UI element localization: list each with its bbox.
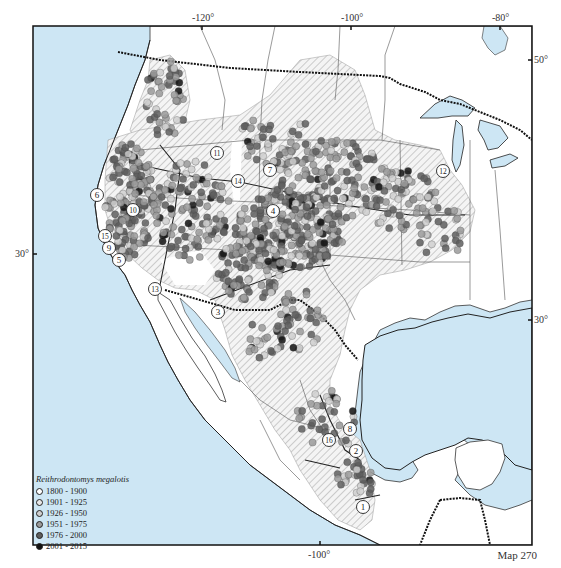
occurrence-dot <box>288 242 295 249</box>
occurrence-dot <box>156 90 163 97</box>
occurrence-dot <box>250 117 257 124</box>
occurrence-dot <box>290 344 297 351</box>
occurrence-dot <box>292 200 299 207</box>
occurrence-dot <box>122 144 129 151</box>
legend-title: Reithrodontomys megalotis <box>36 474 129 485</box>
occurrence-dot <box>270 232 277 239</box>
occurrence-dot <box>119 217 126 224</box>
occurrence-dot <box>170 65 177 72</box>
svg-text:7: 7 <box>268 165 273 175</box>
occurrence-dot <box>302 141 309 148</box>
occurrence-dot <box>192 213 199 220</box>
occurrence-dot <box>423 249 430 256</box>
subspecies-marker-13: 13 <box>149 283 162 296</box>
occurrence-dot <box>339 238 346 245</box>
occurrence-dot <box>349 212 356 219</box>
legend-dot-icon <box>36 521 43 528</box>
occurrence-dot <box>419 205 426 212</box>
occurrence-dot <box>334 475 341 482</box>
occurrence-dot <box>180 175 187 182</box>
occurrence-dot <box>180 116 187 123</box>
occurrence-dot <box>307 176 314 183</box>
occurrence-dot <box>312 148 319 155</box>
occurrence-dot <box>308 331 315 338</box>
legend-entry: 1800 - 1900 <box>36 486 129 497</box>
subspecies-marker-7: 7 <box>264 164 277 177</box>
occurrence-dot <box>344 459 351 466</box>
svg-text:9: 9 <box>107 243 112 253</box>
occurrence-dot <box>363 208 370 215</box>
occurrence-dot <box>132 190 139 197</box>
occurrence-dot <box>168 231 175 238</box>
occurrence-dot <box>138 172 145 179</box>
occurrence-dot <box>123 169 130 176</box>
occurrence-dot <box>144 76 151 83</box>
occurrence-dot <box>178 226 185 233</box>
occurrence-dot <box>245 276 252 283</box>
subspecies-marker-3: 3 <box>212 306 225 319</box>
occurrence-dot <box>259 324 266 331</box>
occurrence-dot <box>410 196 417 203</box>
occurrence-dot <box>331 195 338 202</box>
occurrence-dot <box>275 272 282 279</box>
occurrence-dot <box>293 143 300 150</box>
occurrence-dot <box>218 183 225 190</box>
occurrence-dot <box>318 169 325 176</box>
occurrence-dot <box>291 222 298 229</box>
occurrence-dot <box>418 230 425 237</box>
occurrence-dot <box>162 218 169 225</box>
occurrence-dot <box>283 298 290 305</box>
occurrence-dot <box>337 204 344 211</box>
occurrence-dot <box>154 110 161 117</box>
occurrence-dot <box>298 237 305 244</box>
occurrence-dot <box>112 211 119 218</box>
occurrence-dot <box>190 181 197 188</box>
occurrence-dot <box>194 236 201 243</box>
occurrence-dot <box>440 221 447 228</box>
svg-text:2: 2 <box>354 446 359 456</box>
occurrence-dot <box>314 307 321 314</box>
occurrence-dot <box>177 185 184 192</box>
occurrence-dot <box>307 252 314 259</box>
occurrence-dot <box>335 210 342 217</box>
legend: Reithrodontomys megalotis 1800 - 1900 19… <box>36 474 129 552</box>
occurrence-dot <box>188 166 195 173</box>
occurrence-dot <box>303 223 310 230</box>
subspecies-marker-4: 4 <box>267 205 280 218</box>
occurrence-dot <box>296 252 303 259</box>
occurrence-dot <box>109 174 116 181</box>
occurrence-dot <box>328 147 335 154</box>
occurrence-dot <box>169 182 176 189</box>
occurrence-dot <box>205 236 212 243</box>
occurrence-dot <box>167 205 174 212</box>
occurrence-dot <box>295 131 302 138</box>
occurrence-dot <box>203 180 210 187</box>
occurrence-dot <box>166 128 173 135</box>
occurrence-dot <box>323 202 330 209</box>
occurrence-dot <box>185 220 192 227</box>
subspecies-marker-15: 15 <box>99 230 112 243</box>
occurrence-dot <box>254 228 261 235</box>
svg-text:3: 3 <box>216 307 221 317</box>
occurrence-dot <box>196 200 203 207</box>
occurrence-dot <box>253 156 260 163</box>
occurrence-dot <box>395 195 402 202</box>
occurrence-dot <box>279 259 286 266</box>
occurrence-dot <box>168 243 175 250</box>
svg-text:12: 12 <box>439 167 447 176</box>
occurrence-dot <box>143 163 150 170</box>
occurrence-dot <box>265 258 272 265</box>
occurrence-dot <box>396 212 403 219</box>
occurrence-dot <box>389 175 396 182</box>
occurrence-dot <box>196 229 203 236</box>
occurrence-dot <box>258 196 265 203</box>
occurrence-dot <box>353 466 360 473</box>
occurrence-dot <box>260 153 267 160</box>
svg-text:11: 11 <box>213 149 220 158</box>
occurrence-dot <box>225 197 232 204</box>
occurrence-dot <box>309 439 316 446</box>
occurrence-dot <box>225 287 232 294</box>
occurrence-dot <box>328 138 335 145</box>
occurrence-dot <box>344 140 351 147</box>
occurrence-dot <box>233 243 240 250</box>
